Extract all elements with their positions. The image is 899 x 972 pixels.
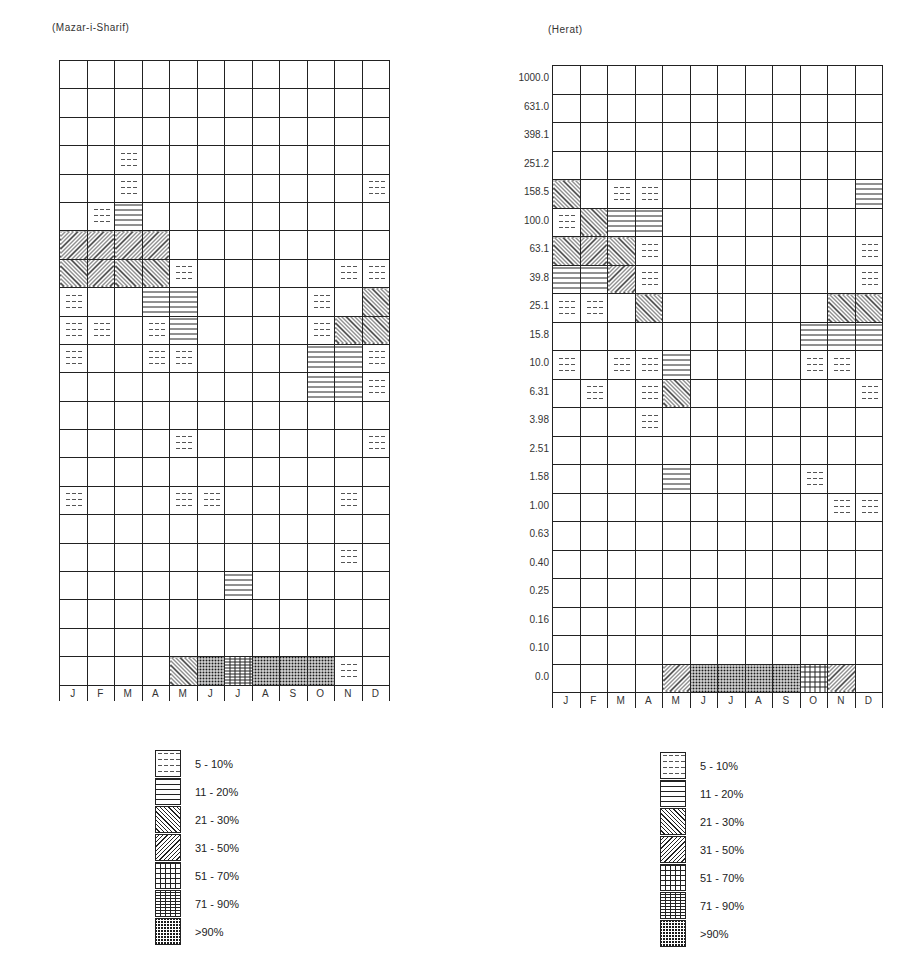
grid-cell — [800, 436, 828, 465]
grid-cell — [608, 522, 636, 551]
grid-cell — [800, 208, 828, 237]
legend-label: 21 - 30% — [700, 816, 744, 828]
x-tick-label: J — [690, 695, 718, 706]
hatch-31-50-percent-swatch — [660, 836, 686, 863]
grid-cell — [718, 351, 746, 380]
grid-cell — [635, 408, 663, 437]
x-tick-mark — [552, 692, 553, 708]
grid-cell — [608, 351, 636, 380]
grid-cell — [580, 664, 608, 693]
grid-cell — [635, 151, 663, 180]
grid-cell — [800, 493, 828, 522]
grid-cell — [690, 465, 718, 494]
grid-cell — [580, 66, 608, 95]
grid-row — [553, 465, 883, 494]
hatch-5-10-percent — [636, 266, 663, 294]
grid-cell — [690, 607, 718, 636]
legend-label: >90% — [700, 928, 728, 940]
grid-cell — [580, 436, 608, 465]
legend-item: 11 - 20% — [660, 780, 743, 807]
grid-cell — [855, 522, 883, 551]
grid-cell — [690, 151, 718, 180]
grid-cell — [800, 607, 828, 636]
grid-cell — [718, 664, 746, 693]
grid-cell — [608, 208, 636, 237]
y-tick-label: 0.16 — [530, 614, 549, 625]
grid-row — [553, 94, 883, 123]
y-tick-label: 631.0 — [524, 101, 549, 112]
grid-row — [553, 123, 883, 152]
grid-cell — [828, 151, 856, 180]
grid-cell — [690, 66, 718, 95]
grid-cell — [828, 94, 856, 123]
grid-cell — [718, 294, 746, 323]
grid-cell — [635, 579, 663, 608]
y-tick-label: 39.8 — [530, 272, 549, 283]
legend-label: 11 - 20% — [195, 786, 238, 798]
grid-row — [553, 408, 883, 437]
grid-cell — [800, 151, 828, 180]
y-tick-label: 0.10 — [530, 642, 549, 653]
grid-cell — [745, 436, 773, 465]
grid-cell — [855, 607, 883, 636]
grid-cell — [800, 636, 828, 665]
y-tick-label: 6.31 — [530, 386, 549, 397]
grid-cell — [663, 66, 691, 95]
grid-cell — [718, 208, 746, 237]
hatch-5-10-percent — [856, 494, 883, 522]
grid-cell — [773, 322, 801, 351]
grid-cell — [608, 579, 636, 608]
grid-cell — [773, 265, 801, 294]
grid-cell — [745, 265, 773, 294]
grid-cell — [718, 436, 746, 465]
grid-cell — [553, 493, 581, 522]
grid-cell — [608, 322, 636, 351]
legend-item: 31 - 50% — [660, 836, 744, 863]
grid-cell — [553, 664, 581, 693]
legend-item: 71 - 90% — [660, 892, 744, 919]
grid-cell — [663, 322, 691, 351]
grid-cell — [663, 265, 691, 294]
grid-cell — [718, 522, 746, 551]
hatch-5-10-percent — [801, 351, 828, 379]
grid-cell — [745, 636, 773, 665]
grid-row — [553, 208, 883, 237]
grid-cell — [635, 265, 663, 294]
grid-row — [553, 550, 883, 579]
grid-cell — [663, 607, 691, 636]
y-tick-label: 0.25 — [530, 585, 549, 596]
legend-label: 71 - 90% — [195, 898, 239, 910]
grid-cell — [718, 379, 746, 408]
grid-cell — [855, 351, 883, 380]
hatch-21-30-percent-swatch — [660, 808, 686, 835]
legend-item: 31 - 50% — [155, 834, 239, 861]
grid-cell — [580, 379, 608, 408]
grid-cell — [580, 123, 608, 152]
grid-cell — [718, 94, 746, 123]
grid-cell — [608, 151, 636, 180]
grid-cell — [663, 664, 691, 693]
grid-row — [553, 493, 883, 522]
x-tick-mark — [580, 692, 581, 708]
hatch-5-10-percent — [801, 465, 828, 493]
grid-row — [553, 66, 883, 95]
grid-cell — [608, 265, 636, 294]
grid-cell — [855, 294, 883, 323]
grid-cell — [718, 465, 746, 494]
legend-label: >90% — [195, 926, 223, 938]
grid-cell — [718, 180, 746, 209]
grid-cell — [773, 237, 801, 266]
x-tick-label: M — [662, 695, 690, 706]
grid-cell — [553, 123, 581, 152]
hatch-51-70-percent-swatch — [155, 862, 181, 889]
x-tick-mark — [855, 692, 856, 708]
grid-cell — [828, 465, 856, 494]
hatch-5-10-percent — [636, 180, 663, 208]
grid-cell — [828, 66, 856, 95]
grid-cell — [690, 579, 718, 608]
grid-cell — [773, 351, 801, 380]
grid-row — [553, 180, 883, 209]
grid-cell — [690, 522, 718, 551]
grid-cell — [718, 66, 746, 95]
grid-cell — [773, 607, 801, 636]
